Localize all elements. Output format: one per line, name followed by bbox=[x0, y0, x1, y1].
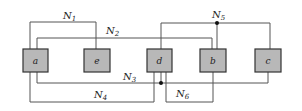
net-n3-wire bbox=[37, 72, 268, 83]
block-c-label: c bbox=[265, 56, 270, 66]
block-e-label: e bbox=[94, 56, 99, 66]
net-n2-label: N2 bbox=[105, 25, 120, 38]
block-d-label: d bbox=[157, 56, 163, 66]
block-a-label: a bbox=[33, 56, 38, 66]
net-n6-label: N6 bbox=[175, 88, 190, 101]
net-n5-label: N5 bbox=[211, 9, 226, 22]
net-n5-junction bbox=[215, 21, 219, 25]
net-n2-wire bbox=[37, 38, 212, 49]
block-b-label: b bbox=[210, 56, 216, 66]
net-n1-wire bbox=[30, 22, 96, 49]
net-n3-label: N3 bbox=[122, 71, 137, 84]
net-n1-label: N1 bbox=[62, 10, 76, 23]
net-n4-label: N4 bbox=[93, 89, 107, 102]
net-n6-wire bbox=[166, 72, 213, 102]
net-n5-wire bbox=[161, 23, 270, 49]
net-n3-junction bbox=[159, 81, 163, 85]
netlist-diagram: a e d b c N1 N2 N3 N4 N5 N6 bbox=[0, 0, 302, 111]
